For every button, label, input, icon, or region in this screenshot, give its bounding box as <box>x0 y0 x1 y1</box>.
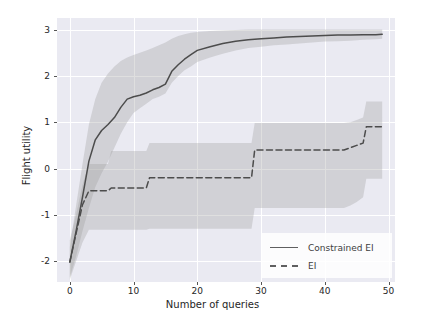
x-tick-label: 20 <box>192 286 203 296</box>
legend-label-ei: EI <box>308 261 316 271</box>
y-tickmark <box>54 261 57 262</box>
y-tick-label: 2 <box>44 71 50 81</box>
y-tick-label: 3 <box>44 25 50 35</box>
x-tick-label: 0 <box>67 286 73 296</box>
chart-figure: 010203040503210-1-2 Number of queries Fl… <box>0 0 425 322</box>
y-axis-label: Flight utility <box>21 106 32 206</box>
y-tickmark <box>54 30 57 31</box>
y-tick-label: 1 <box>44 117 50 127</box>
y-tickmark <box>54 215 57 216</box>
legend-swatch-dashed <box>270 261 298 271</box>
x-tick-label: 40 <box>319 286 330 296</box>
y-tick-label: -1 <box>41 210 50 220</box>
x-axis-label: Number of queries <box>0 299 425 310</box>
y-tickmark <box>54 76 57 77</box>
y-tickmark <box>54 169 57 170</box>
x-tickmark <box>197 282 198 285</box>
x-tickmark <box>325 282 326 285</box>
legend-item-ei: EI <box>270 258 384 273</box>
x-tickmark <box>70 282 71 285</box>
x-tick-label: 10 <box>128 286 139 296</box>
x-tick-label: 50 <box>383 286 394 296</box>
legend-label-constrained-ei: Constrained EI <box>308 243 374 253</box>
x-tickmark <box>389 282 390 285</box>
legend: Constrained EI EI <box>262 233 392 278</box>
y-tick-label: 0 <box>44 164 50 174</box>
legend-item-constrained-ei: Constrained EI <box>270 240 384 255</box>
x-tick-label: 30 <box>255 286 266 296</box>
x-tickmark <box>134 282 135 285</box>
legend-swatch-solid <box>270 243 298 253</box>
y-tick-label: -2 <box>41 256 50 266</box>
x-tickmark <box>261 282 262 285</box>
y-tickmark <box>54 122 57 123</box>
